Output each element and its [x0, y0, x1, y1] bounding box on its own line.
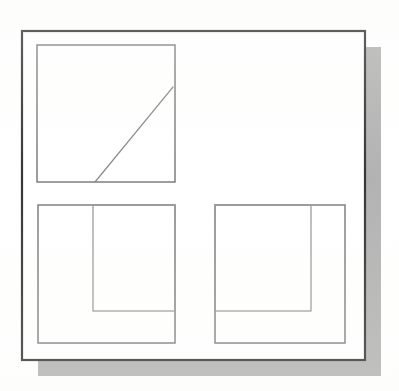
panel-bottom-right-box: [215, 205, 345, 343]
technical-drawing-svg: [0, 0, 399, 391]
panel-top-left-box: [37, 45, 175, 182]
figure-container: [0, 0, 399, 391]
panel-bottom-left-box: [38, 205, 175, 343]
